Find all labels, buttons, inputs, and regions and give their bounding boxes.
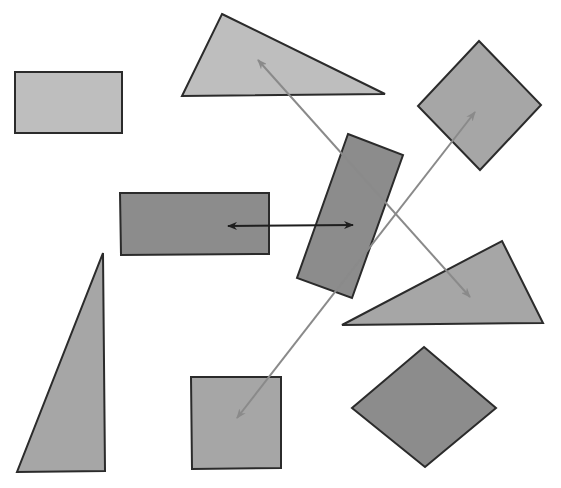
arrow-horizontal-icon (228, 225, 353, 226)
diamond-top-right-shape (418, 41, 541, 170)
rect-top-left-shape (15, 72, 122, 133)
triangle-tall-left-shape (17, 253, 105, 472)
rect-middle-left-shape (120, 193, 269, 255)
diagram-canvas (0, 0, 561, 488)
square-bottom-shape (191, 377, 281, 469)
triangle-right-shape (342, 241, 543, 325)
diamond-bottom-shape (352, 347, 496, 467)
triangle-top-shape (182, 14, 385, 96)
